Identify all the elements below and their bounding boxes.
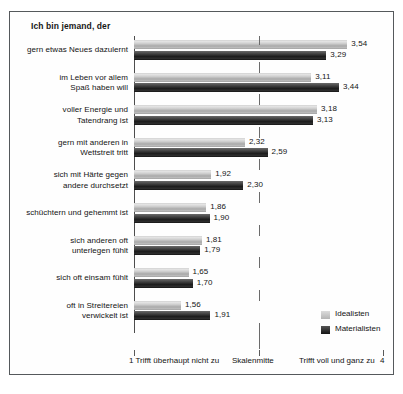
bar-materialisten — [134, 51, 326, 60]
scale-midpoint-tick — [259, 62, 260, 73]
category-label: gern mit anderen inWettstreit tritt — [8, 138, 128, 159]
bar-materialisten — [134, 311, 210, 320]
axis-tick-min — [134, 350, 135, 356]
bar-materialisten — [134, 279, 193, 288]
axis-label-mid: Skalenmitte — [232, 356, 274, 365]
bar-materialisten — [134, 116, 313, 125]
bar-idealisten — [134, 105, 317, 114]
category-label-line: oft in Streitereien — [8, 301, 128, 312]
scale-midpoint-tick — [259, 192, 260, 203]
scale-midpoint-tick — [259, 323, 260, 349]
axis-tick-mid — [259, 350, 260, 356]
category-label-line: unterlegen fühlt — [8, 246, 128, 257]
category-label: sich anderen oftunterlegen fühlt — [8, 236, 128, 257]
category-label: gern etwas Neues dazulernt — [8, 45, 128, 56]
plot-area: gern etwas Neues dazulernt3,543,29im Leb… — [10, 36, 395, 336]
category-label: oft in Streitereienverwickelt ist — [8, 301, 128, 322]
scale-midpoint-tick — [259, 94, 260, 105]
category-label-line: sich mit Härte gegen — [8, 170, 128, 181]
category-label-line: Tatendrang ist — [8, 116, 128, 127]
bar-idealisten — [134, 73, 311, 82]
bar-value-label: 2,59 — [272, 147, 288, 156]
category-label-line: Wettstreit tritt — [8, 148, 128, 159]
bar-value-label: 3,18 — [321, 104, 337, 113]
bar-materialisten — [134, 148, 268, 157]
category-label-line: gern mit anderen in — [8, 138, 128, 149]
bar-materialisten — [134, 214, 210, 223]
scale-midpoint-tick — [259, 257, 260, 268]
bar-value-label: 3,11 — [315, 72, 330, 81]
scale-midpoint-tick — [259, 36, 260, 45]
axis-label-min: 1 Trifft überhaupt nicht zu — [129, 356, 219, 365]
scale-midpoint-tick — [259, 225, 260, 236]
category-label-line: sich oft einsam fühlt — [8, 273, 128, 284]
bar-value-label: 3,54 — [351, 39, 367, 48]
bar-value-label: 1,65 — [193, 267, 209, 276]
bar-materialisten — [134, 246, 200, 255]
axis-label-max: Trifft voll und ganz zu — [299, 356, 375, 365]
bar-value-label: 2,30 — [247, 180, 263, 189]
bar-idealisten — [134, 138, 245, 147]
bar-idealisten — [134, 203, 206, 212]
axis-max-value: 4 — [380, 356, 384, 365]
category-label: sich mit Härte gegenandere durchsetzt — [8, 170, 128, 191]
axis-tick-max — [383, 350, 384, 356]
bar-value-label: 1,86 — [210, 202, 226, 211]
scan-top-cropped-strip — [0, 0, 403, 9]
bar-value-label: 1,70 — [197, 278, 213, 287]
category-label: voller Energie undTatendrang ist — [8, 105, 128, 126]
bar-idealisten — [134, 40, 347, 49]
bar-value-label: 3,29 — [330, 50, 346, 59]
bar-idealisten — [134, 268, 189, 277]
category-label: sich oft einsam fühlt — [8, 273, 128, 284]
bar-materialisten — [134, 181, 243, 190]
bar-value-label: 3,13 — [317, 115, 333, 124]
category-label-line: Spaß haben will — [8, 83, 128, 94]
bar-value-label: 1,91 — [214, 310, 230, 319]
legend-swatch-idealisten — [321, 311, 330, 319]
category-label-line: sich anderen oft — [8, 236, 128, 247]
chart-figure: Ich bin jemand, der gern etwas Neues daz… — [9, 11, 394, 375]
category-label-line: im Leben vor allem — [8, 73, 128, 84]
category-label: schüchtern und gehemmt ist — [8, 208, 128, 219]
bar-idealisten — [134, 301, 181, 310]
bar-value-label: 1,56 — [185, 300, 201, 309]
bar-materialisten — [134, 83, 339, 92]
axis-min-value: 1 — [129, 356, 133, 365]
scale-midpoint-tick — [259, 127, 260, 138]
scale-midpoint-tick — [259, 290, 260, 301]
bar-value-label: 1,92 — [215, 169, 231, 178]
category-label-line: gern etwas Neues dazulernt — [8, 45, 128, 56]
legend-label: Materialisten — [335, 324, 380, 333]
bar-value-label: 3,44 — [343, 82, 359, 91]
category-label-line: voller Energie und — [8, 105, 128, 116]
axis-min-text: Trifft überhaupt nicht zu — [136, 356, 220, 365]
scale-midpoint-tick — [259, 159, 260, 170]
bar-value-label: 1,90 — [214, 213, 230, 222]
axis-annotation-row: 1 Trifft überhaupt nicht zu Skalenmitte … — [10, 356, 395, 372]
bar-value-label: 2,32 — [249, 137, 265, 146]
bar-value-label: 1,79 — [204, 245, 220, 254]
category-label-line: andere durchsetzt — [8, 181, 128, 192]
legend-label: Idealisten — [335, 309, 369, 318]
legend-swatch-materialisten — [321, 326, 330, 334]
chart-title: Ich bin jemand, der — [31, 21, 110, 31]
category-label-line: verwickelt ist — [8, 311, 128, 322]
category-label-line: schüchtern und gehemmt ist — [8, 208, 128, 219]
category-label: im Leben vor allemSpaß haben will — [8, 73, 128, 94]
bar-value-label: 1,81 — [206, 235, 222, 244]
bar-idealisten — [134, 236, 202, 245]
bar-idealisten — [134, 170, 211, 179]
